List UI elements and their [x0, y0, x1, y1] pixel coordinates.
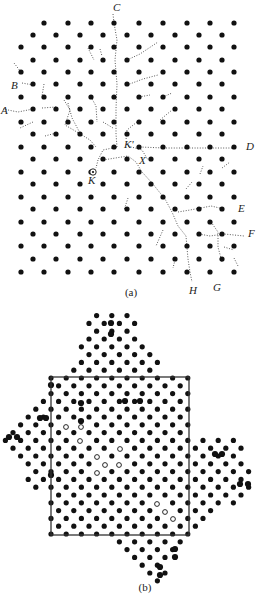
atom-site: [102, 430, 107, 435]
path-label: A: [0, 104, 8, 116]
atom-site: [170, 531, 175, 536]
atom-site: [102, 446, 107, 451]
atom-site: [148, 32, 153, 37]
atom-site: [33, 438, 38, 443]
atom-site: [64, 438, 69, 443]
path-label: D: [245, 140, 254, 152]
atom-site: [117, 492, 122, 497]
migration-path: [156, 230, 163, 246]
atom-site: [117, 336, 122, 341]
atom-site: [132, 461, 137, 466]
atom-site: [219, 256, 224, 261]
atom-site: [109, 391, 114, 396]
atom-site: [184, 194, 189, 199]
atom-site: [41, 69, 46, 74]
atom-site: [64, 391, 69, 396]
atom-site: [56, 508, 61, 513]
atom-site: [18, 422, 23, 427]
atom-site: [136, 20, 141, 25]
atom-site-emphasized: [157, 564, 163, 570]
atom-site: [124, 516, 129, 521]
atom-site: [33, 485, 38, 490]
atom-site-emphasized: [245, 481, 251, 487]
atom-site: [124, 32, 129, 37]
atom-site: [140, 391, 145, 396]
atom-site: [41, 243, 46, 248]
atom-site: [56, 430, 61, 435]
atom-site-emphasized: [219, 451, 225, 457]
vacant-site: [64, 425, 69, 430]
atom-site: [71, 399, 76, 404]
atom-site-emphasized: [137, 398, 143, 404]
atom-site: [184, 144, 189, 149]
atom-site: [140, 500, 145, 505]
atom-site: [88, 20, 93, 25]
atom-site: [208, 508, 213, 513]
atom-site: [231, 69, 236, 74]
atom-site: [117, 477, 122, 482]
atom-site: [18, 94, 23, 99]
atom-site: [160, 169, 165, 174]
atom-site: [100, 156, 105, 161]
atom-site: [147, 352, 152, 357]
atom-site: [178, 414, 183, 419]
atom-site: [196, 231, 201, 236]
atom-site: [18, 453, 23, 458]
atom-site-emphasized: [6, 434, 12, 440]
atom-site: [18, 144, 23, 149]
atom-site: [65, 243, 70, 248]
atom-site: [208, 477, 213, 482]
atom-site: [132, 399, 137, 404]
atom-site: [109, 313, 114, 318]
atom-site: [170, 391, 175, 396]
atom-site: [71, 524, 76, 529]
atom-site: [109, 375, 114, 380]
migration-path: [234, 258, 238, 266]
atom-site: [124, 57, 129, 62]
atom-site: [26, 430, 31, 435]
atom-site: [77, 231, 82, 236]
atom-site: [41, 219, 46, 224]
atom-site: [208, 492, 213, 497]
atom-site: [86, 321, 91, 326]
atom-site: [88, 69, 93, 74]
atom-site-emphasized: [108, 331, 114, 337]
atom-site: [207, 119, 212, 124]
atom-site: [94, 344, 99, 349]
atom-site: [102, 524, 107, 529]
atom-site: [231, 453, 236, 458]
atom-site: [132, 352, 137, 357]
atom-site: [26, 477, 31, 482]
atom-site: [238, 461, 243, 466]
atom-site: [86, 430, 91, 435]
atom-site: [117, 508, 122, 513]
atom-site-emphasized: [78, 418, 84, 424]
atom-site: [30, 156, 35, 161]
vacant-site: [95, 455, 100, 460]
atom-site: [207, 44, 212, 49]
atom-site: [238, 446, 243, 451]
atom-site: [170, 407, 175, 412]
atom-site: [147, 461, 152, 466]
atom-site: [155, 516, 160, 521]
atom-site: [109, 453, 114, 458]
atom-site: [53, 181, 58, 186]
migration-path: [200, 166, 203, 174]
atom-site: [86, 336, 91, 341]
atom-site: [231, 243, 236, 248]
atom-site: [184, 169, 189, 174]
atom-site: [100, 206, 105, 211]
atom-site: [26, 461, 31, 466]
atom-site: [79, 469, 84, 474]
atom-site: [71, 383, 76, 388]
atom-site: [196, 206, 201, 211]
atom-site: [124, 313, 129, 318]
atom-site: [223, 461, 228, 466]
atom-site: [56, 399, 61, 404]
atom-site: [124, 206, 129, 211]
atom-site: [53, 156, 58, 161]
atom-site: [100, 231, 105, 236]
atom-site: [196, 106, 201, 111]
atom-site: [86, 524, 91, 529]
atom-site: [102, 321, 107, 326]
